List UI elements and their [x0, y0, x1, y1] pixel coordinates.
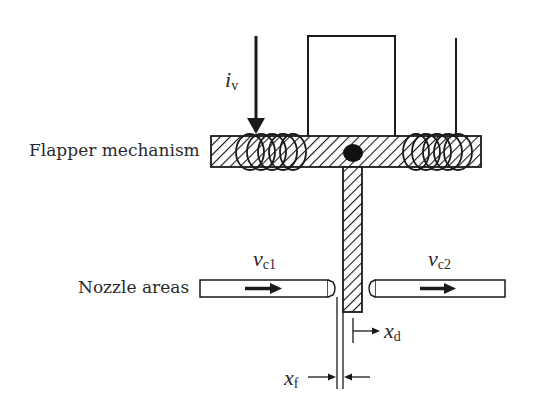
xf-arrows-icon [308, 374, 370, 381]
vc2-symbol: vc2 [428, 246, 451, 273]
xd-symbol: xd [384, 318, 401, 345]
armature-box [308, 36, 395, 136]
nozzle-areas-label: Nozzle areas [78, 277, 189, 297]
flapper-nozzle-diagram [0, 0, 534, 412]
vc1-symbol: vc1 [253, 246, 276, 273]
current-arrow-icon [247, 36, 265, 134]
flapper-stem [343, 167, 362, 312]
xd-arrow-icon [353, 318, 380, 343]
flapper-mechanism-label: Flapper mechanism [29, 140, 200, 160]
current-symbol: iv [225, 67, 238, 94]
pivot-icon [343, 144, 363, 162]
xf-symbol: xf [284, 365, 298, 392]
